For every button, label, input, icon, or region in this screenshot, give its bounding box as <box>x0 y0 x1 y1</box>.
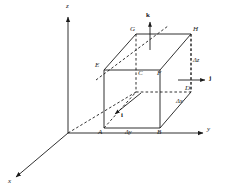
vertex-label-A: A <box>98 129 102 136</box>
vertex-label-H: H <box>193 26 198 33</box>
vertex-label-B: B <box>157 129 161 136</box>
dimension-label-delta-x: Δx <box>176 98 183 105</box>
vector-label-k: k <box>146 12 150 19</box>
box-edge-FH <box>160 34 191 70</box>
axis-x-line <box>16 133 68 177</box>
vector-label-i: i <box>121 112 123 119</box>
figure-canvas: z y x A B C D E F G H k j i Δz Δx Δy <box>0 0 226 192</box>
vertex-label-D: D <box>185 85 190 92</box>
vector-i-arrow <box>115 93 141 114</box>
dimension-label-delta-y: Δy <box>125 129 132 136</box>
axis-label-x: x <box>8 178 11 185</box>
box-edge-EG <box>104 34 136 70</box>
vertex-label-G: G <box>130 26 135 33</box>
vertex-label-F: F <box>157 70 161 77</box>
dimension-label-delta-z: Δz <box>193 57 199 64</box>
guide-line-origin-to-C <box>68 92 136 133</box>
vertex-label-E: E <box>95 62 99 69</box>
axis-label-y: y <box>207 126 210 133</box>
vector-label-j: j <box>209 75 211 82</box>
axis-label-z: z <box>66 3 69 10</box>
vertex-label-C: C <box>138 70 143 77</box>
